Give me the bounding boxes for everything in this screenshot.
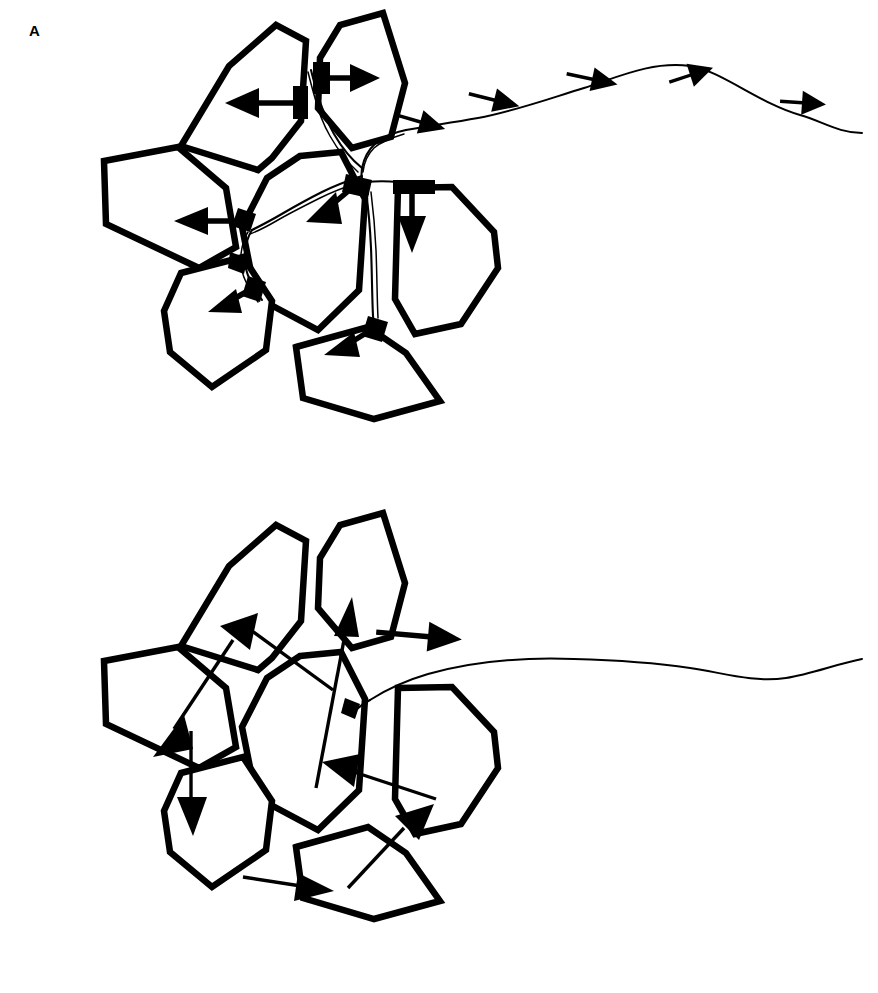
- cell-group-b: [104, 513, 498, 919]
- axon-arrow-head-1: [417, 110, 449, 140]
- axon-main-line: [406, 65, 862, 133]
- bouton-1: [293, 86, 308, 119]
- cell-bottom: [296, 827, 440, 919]
- axon-arrow-2: [466, 82, 522, 118]
- cell-group-a: [104, 13, 498, 419]
- axon-arrow-stem-2: [469, 94, 498, 101]
- bouton-6: [393, 180, 435, 194]
- cell-lower-left: [164, 757, 272, 887]
- axon-arrow-head-5: [801, 91, 827, 117]
- cell-top-left: [181, 525, 306, 670]
- figure-root: A: [0, 0, 878, 993]
- panel-a-drawing: [0, 0, 878, 500]
- cell-left: [104, 147, 236, 268]
- axon-arrow-5: [779, 89, 827, 116]
- cell-lower-left: [164, 257, 272, 387]
- caption-strip: [0, 979, 878, 993]
- panel-b: B: [0, 500, 878, 993]
- axon-arrow-head-1: [427, 622, 463, 655]
- cell-top-right: [318, 513, 405, 648]
- bouton-2: [313, 62, 330, 94]
- axon-arrow-head-4: [686, 56, 716, 86]
- axon-arrow-stem-1: [395, 115, 424, 123]
- axon-arrow-4: [666, 56, 717, 93]
- axon-arrow-head-3: [590, 67, 620, 96]
- arrow-stem-to-bottom: [243, 877, 301, 886]
- cell-bottom: [296, 327, 440, 419]
- axon-branch-vertical: [366, 192, 376, 338]
- panel-a: A: [0, 0, 878, 500]
- axon-arrow-stem-3: [567, 74, 596, 80]
- panel-b-drawing: [0, 500, 878, 993]
